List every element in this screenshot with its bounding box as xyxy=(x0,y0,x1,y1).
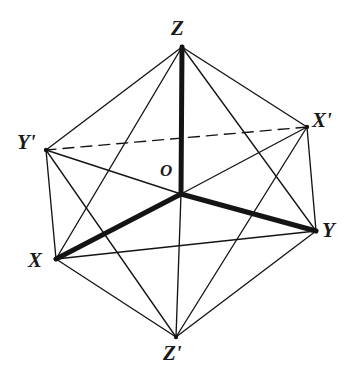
edge-Y-Xp xyxy=(307,127,316,231)
axis-O-Zp xyxy=(176,194,181,337)
edge-Z-Yp xyxy=(46,47,182,150)
octahedron-drawing xyxy=(0,0,353,377)
edge-Xp-Yp xyxy=(46,127,307,150)
vertex-dot-Zp xyxy=(174,335,178,339)
vertex-label-Yp: Y' xyxy=(17,132,36,153)
vertex-label-Xp: X' xyxy=(312,110,332,131)
axis-O-Xp xyxy=(181,127,307,194)
vertex-dot-Xp xyxy=(305,125,309,129)
vertex-dot-X xyxy=(54,257,58,261)
vertex-dot-Yp xyxy=(44,148,48,152)
edge-Zp-Y xyxy=(176,231,316,337)
vertex-label-Z: Z xyxy=(171,18,184,39)
axis-O-Y xyxy=(181,194,316,231)
octahedron-figure: ZY'X'XYZ'O xyxy=(0,0,353,377)
vertex-label-Zp: Z' xyxy=(163,343,182,364)
axis-O-Z xyxy=(181,47,182,194)
edge-Zp-X xyxy=(56,259,176,337)
edge-Z-Xp xyxy=(182,47,307,127)
vertex-label-Y: Y xyxy=(322,220,335,241)
vertex-dot-O xyxy=(178,191,183,196)
vertex-label-O: O xyxy=(160,162,172,179)
edge-Yp-X xyxy=(46,150,56,259)
edge-Z-Y xyxy=(182,47,316,231)
vertex-dot-Y xyxy=(314,229,318,233)
vertex-label-X: X xyxy=(28,250,42,271)
edge-Zp-Xp xyxy=(176,127,307,337)
edge-X-Y xyxy=(56,231,316,259)
vertex-dot-Z xyxy=(180,45,184,49)
